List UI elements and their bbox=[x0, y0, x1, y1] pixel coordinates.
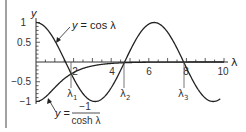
plot-canvas: y λ 1 0.5 −0.5 −1 2 4 6 8 10 λ1 λ2 λ3 y … bbox=[0, 0, 246, 132]
y-axis bbox=[36, 18, 40, 104]
lambda3-label: λ3 bbox=[178, 88, 188, 102]
x-tick-label-6: 6 bbox=[146, 66, 152, 77]
x-tick-label-10: 10 bbox=[217, 66, 229, 77]
cos-annotation: y = cos λ bbox=[56, 19, 116, 43]
sech-denominator: cosh λ bbox=[72, 115, 101, 126]
lambda2-label: λ2 bbox=[120, 88, 130, 102]
x-tick-label-4: 4 bbox=[109, 66, 115, 77]
sech-annotation: y = −1 cosh λ bbox=[47, 98, 100, 126]
y-tick-label-neg1: −1 bbox=[20, 96, 32, 107]
sech-numerator: −1 bbox=[79, 101, 91, 112]
lambda1-label: λ1 bbox=[67, 88, 77, 102]
y-tick-label-1: 1 bbox=[20, 17, 26, 28]
y-tick-label-neg0.5: −0.5 bbox=[11, 76, 31, 87]
y-tick-label-0.5: 0.5 bbox=[17, 37, 31, 48]
sech-label-lhs: y = bbox=[54, 107, 70, 119]
y-axis-label: y bbox=[30, 7, 38, 19]
cos-label: y = cos λ bbox=[71, 19, 116, 31]
x-axis-label: λ bbox=[231, 56, 238, 69]
